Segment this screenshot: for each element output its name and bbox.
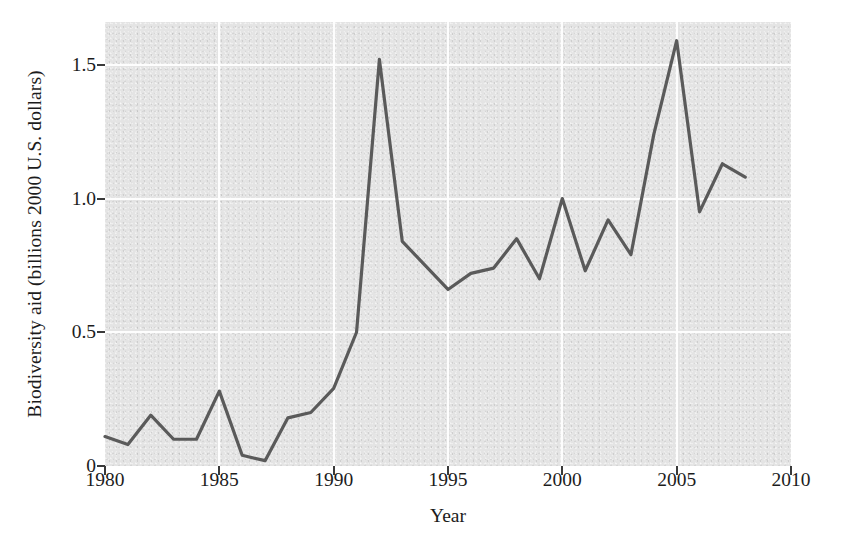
- series-line-biodiversity-aid: [105, 41, 745, 461]
- x-tick-label: 2005: [632, 470, 722, 490]
- x-axis-title: Year: [105, 505, 791, 527]
- x-tick-label: 2000: [517, 470, 607, 490]
- x-tick-label: 1985: [174, 470, 264, 490]
- y-tick-mark: [97, 64, 105, 66]
- y-tick-mark: [97, 198, 105, 200]
- plot-area: [105, 22, 791, 466]
- x-tick-label: 1995: [403, 470, 493, 490]
- x-tick-label: 2010: [746, 470, 836, 490]
- data-series-layer: [105, 22, 791, 466]
- y-tick-label: 0.5: [72, 322, 96, 342]
- y-axis-title: Biodiversity aid (billions 2000 U.S. dol…: [18, 9, 52, 479]
- y-tick-label: 1.5: [72, 55, 96, 75]
- x-tick-label: 1980: [60, 470, 150, 490]
- biodiversity-aid-line-chart: Biodiversity aid (billions 2000 U.S. dol…: [0, 0, 842, 549]
- y-tick-label: 1.0: [72, 189, 96, 209]
- x-tick-label: 1990: [289, 470, 379, 490]
- y-tick-mark: [97, 331, 105, 333]
